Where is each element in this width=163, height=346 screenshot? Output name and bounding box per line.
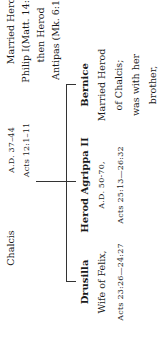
agrippa-ii-line1: A.D. 50-70,	[97, 161, 107, 208]
agrippa-ii-name: Herod Agrippa II	[80, 137, 90, 232]
agrippa-i-reference: Acts 12:1–11	[22, 123, 32, 178]
bernice-line4: brother,	[148, 66, 158, 104]
drusilla-line2: Acts 23:26—24:27	[116, 243, 126, 320]
drusilla-name: Drusilla	[80, 260, 90, 305]
herodias-line3: then Herod	[36, 8, 46, 63]
genealogy-chart: Chalcis A.D. 37–44 Acts 12:1–11 Married …	[0, 0, 163, 346]
drusilla-line1: Wife of Felix,	[97, 250, 107, 313]
bracket-tick-left	[66, 281, 76, 282]
herodias-line1: Married Herod	[6, 0, 16, 64]
connector-stem	[36, 181, 76, 182]
bernice-name: Bernice	[80, 63, 90, 107]
sibling-bracket	[66, 84, 67, 282]
herodias-line2: Philip I(Matt. 14:3),	[21, 0, 31, 83]
bernice-line3: was with her	[131, 54, 141, 116]
chalcis-text: Chalcis	[6, 230, 16, 265]
bracket-tick-right	[66, 84, 76, 85]
agrippa-ii-line2: Acts 25:13—26:32	[116, 146, 126, 223]
bernice-line1: Married Herod	[97, 49, 107, 121]
herodias-line4: Antipas (Mk. 6:17)	[51, 0, 61, 80]
agrippa-i-dates: A.D. 37–44	[7, 127, 17, 173]
bernice-line2: of Chalcis;	[114, 60, 124, 111]
